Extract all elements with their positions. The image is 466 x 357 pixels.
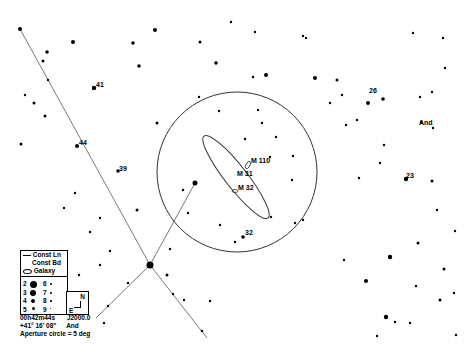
- compass-arrows: [74, 301, 81, 308]
- star-label-23: 23: [406, 172, 414, 179]
- mag-dot: [30, 281, 37, 288]
- constellation-line: [150, 183, 195, 265]
- star-label-44: 44: [79, 139, 87, 146]
- compass-north: N: [80, 293, 85, 300]
- constellation-label-and: And: [419, 119, 433, 126]
- star-label-26: 26: [369, 87, 377, 94]
- constellation-name: And: [66, 322, 79, 329]
- star-label-41: 41: [96, 81, 104, 88]
- mag-dot: [30, 290, 36, 296]
- aperture-info: Aperture circle = 5 deg: [20, 330, 90, 338]
- mag-dot: [50, 292, 52, 294]
- compass-box: N E: [66, 291, 89, 315]
- m110-label[interactable]: M 110: [251, 157, 270, 164]
- mag-dot: [50, 300, 52, 302]
- epoch: J2000.0: [67, 314, 91, 321]
- m31-label[interactable]: M 31: [237, 170, 253, 177]
- m31-galaxy-ellipse[interactable]: [195, 129, 276, 224]
- ellipse-icon: [23, 269, 32, 274]
- star-label-32: 32: [245, 229, 253, 236]
- constellation-line: [150, 265, 207, 338]
- mag-dot: [50, 308, 51, 309]
- legend-galaxy: Galaxy: [21, 267, 67, 275]
- mag-dot: [32, 307, 35, 310]
- m32-label[interactable]: M 32: [238, 184, 254, 191]
- constellation-line: [96, 265, 150, 318]
- star-field: [18, 21, 457, 337]
- legend-box: Const Ln Const Bd Galaxy 2 3 4 5 6 7 8 9: [20, 250, 68, 315]
- chart-info: 00h42m44s J2000.0 +41° 16' 08" And Apert…: [20, 314, 90, 338]
- constellation-line: [20, 29, 150, 265]
- magnitude-scale: 2 3 4 5 6 7 8 9: [21, 277, 67, 313]
- mag-dot: [50, 283, 52, 285]
- dec-coordinate: +41° 16' 08": [20, 322, 56, 329]
- legend-const-line: Const Ln: [21, 251, 67, 259]
- star-label-39: 39: [119, 165, 127, 172]
- mag-dot: [31, 299, 35, 303]
- ra-coordinate: 00h42m44s: [20, 314, 55, 321]
- compass-east: E: [69, 307, 73, 314]
- line-icon: [23, 255, 31, 256]
- legend-const-bd: Const Bd: [21, 259, 67, 267]
